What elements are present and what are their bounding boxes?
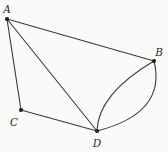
- vertex-label-A: A: [2, 3, 11, 15]
- geometry-figure: ABCD: [0, 0, 168, 152]
- vertex-label-B: B: [154, 46, 163, 58]
- vertex-dot-B: [152, 59, 156, 63]
- figure-background: [0, 0, 168, 152]
- vertex-dot-A: [5, 17, 9, 21]
- diagram-canvas: ABCD: [0, 0, 168, 152]
- vertex-label-C: C: [10, 116, 18, 128]
- vertex-dot-C: [19, 108, 23, 112]
- vertex-label-D: D: [92, 137, 102, 149]
- vertex-dot-D: [95, 129, 99, 133]
